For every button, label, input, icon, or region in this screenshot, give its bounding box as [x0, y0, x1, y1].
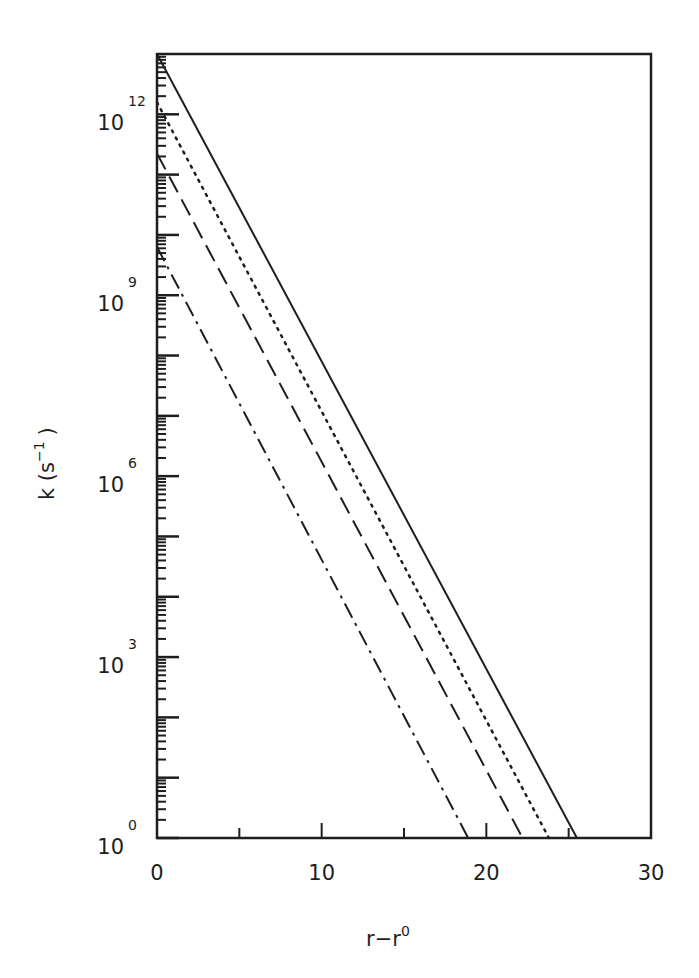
x-axis-title: r−r0	[366, 923, 410, 951]
y-axis-title: k (s−1)	[31, 427, 59, 500]
x-tick-labels: 0102030	[150, 861, 664, 885]
y-tick-label: 10	[97, 111, 124, 135]
x-tick-label: 10	[308, 861, 335, 885]
y-tick-label: 10	[97, 835, 124, 859]
series-solid	[157, 54, 577, 838]
y-major-ticks	[157, 114, 179, 838]
y-tick-exponent: 6	[128, 455, 137, 471]
y-tick-labels: 1001031061091012	[97, 93, 146, 859]
series-dotted	[157, 102, 549, 838]
data-series	[157, 54, 577, 838]
x-ticks	[157, 823, 651, 838]
chart: 1001031061091012 0102030 r−r0 k (s−1)	[0, 0, 699, 978]
y-tick-label: 10	[97, 292, 124, 316]
plot-frame	[157, 54, 651, 838]
y-tick-label: 10	[97, 654, 124, 678]
x-tick-label: 30	[638, 861, 665, 885]
y-tick-exponent: 0	[128, 817, 137, 833]
x-tick-label: 0	[150, 861, 163, 885]
y-tick-exponent: 9	[128, 274, 137, 290]
y-tick-exponent: 12	[128, 93, 146, 109]
x-tick-label: 20	[473, 861, 500, 885]
series-dashed	[157, 154, 523, 838]
y-tick-label: 10	[97, 473, 124, 497]
series-dash-dot	[157, 247, 468, 838]
y-tick-exponent: 3	[128, 636, 137, 652]
y-minor-ticks	[157, 57, 166, 820]
